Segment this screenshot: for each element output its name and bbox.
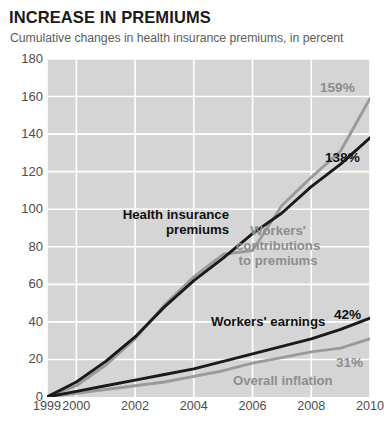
x-axis-tick-label: 2004 [180,400,208,413]
data-label-earnings: 42% [334,307,361,322]
annotation-workers-contributions: Workers' contributions to premiums [236,224,320,268]
y-axis-tick-label: 80 [3,240,43,253]
data-label-inflation: 31% [336,355,363,370]
annotation-health-insurance-premiums: Health insurance premiums [123,208,229,238]
y-axis-tick-label: 120 [3,165,43,178]
y-axis-tick-label: 100 [3,202,43,215]
page-title: INCREASE IN PREMIUMS [9,8,211,27]
series-line [47,138,370,397]
x-axis-tick-label: 2006 [239,400,267,413]
x-axis-tick-label: 2002 [121,400,149,413]
x-axis-tick-label: 2000 [62,400,90,413]
y-axis-tick-label: 40 [3,315,43,328]
x-axis-tick-label: 1999 [33,400,61,413]
x-axis: 1999200020022004200620082010 [0,400,381,422]
data-label-premiums: 138% [325,150,360,165]
series-line [47,98,370,397]
chart-subtitle: Cumulative changes in health insurance p… [10,31,343,45]
annotation-workers-earnings: Workers' earnings [211,315,325,330]
y-axis-tick-label: 180 [3,52,43,65]
y-axis-tick-label: 160 [3,90,43,103]
x-axis-tick-label: 2008 [297,400,325,413]
y-axis-tick-label: 60 [3,277,43,290]
y-axis-tick-label: 140 [3,127,43,140]
x-axis-tick-label: 2010 [356,400,384,413]
y-axis: 020406080100120140160180 [0,59,43,397]
data-label-contributions: 159% [320,80,355,95]
annotation-overall-inflation: Overall inflation [233,374,333,389]
y-axis-tick-label: 20 [3,352,43,365]
